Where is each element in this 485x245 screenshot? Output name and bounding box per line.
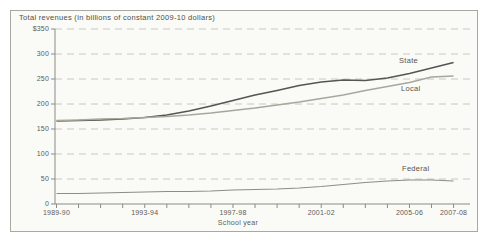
- y-axis-tick-label: 50: [16, 175, 49, 182]
- figure: Total revenues (in billions of constant …: [0, 0, 485, 245]
- state-series-label: State: [399, 56, 418, 65]
- y-axis-tick-label: $350: [16, 25, 49, 32]
- x-axis-tick-label: 2007-08: [424, 209, 484, 216]
- y-axis-tick-label: 150: [16, 125, 49, 132]
- y-axis-tick-label: 100: [16, 150, 49, 157]
- local-line: [57, 76, 454, 121]
- y-axis-tick-label: 0: [16, 200, 49, 207]
- x-axis-tick-label: 1993-94: [115, 209, 175, 216]
- local-series-label: Local: [401, 84, 420, 93]
- x-axis-tick-label: 1997-98: [203, 209, 263, 216]
- y-axis-tick-label: 300: [16, 50, 49, 57]
- federal-line: [57, 180, 454, 194]
- federal-series-label: Federal: [402, 164, 430, 173]
- y-axis-tick-label: 200: [16, 100, 49, 107]
- y-axis-tick-label: 250: [16, 75, 49, 82]
- x-axis-tick-label: 1989-90: [27, 209, 87, 216]
- x-axis-title: School year: [208, 219, 268, 226]
- state-line: [57, 63, 454, 122]
- x-axis-tick-label: 2001-02: [291, 209, 351, 216]
